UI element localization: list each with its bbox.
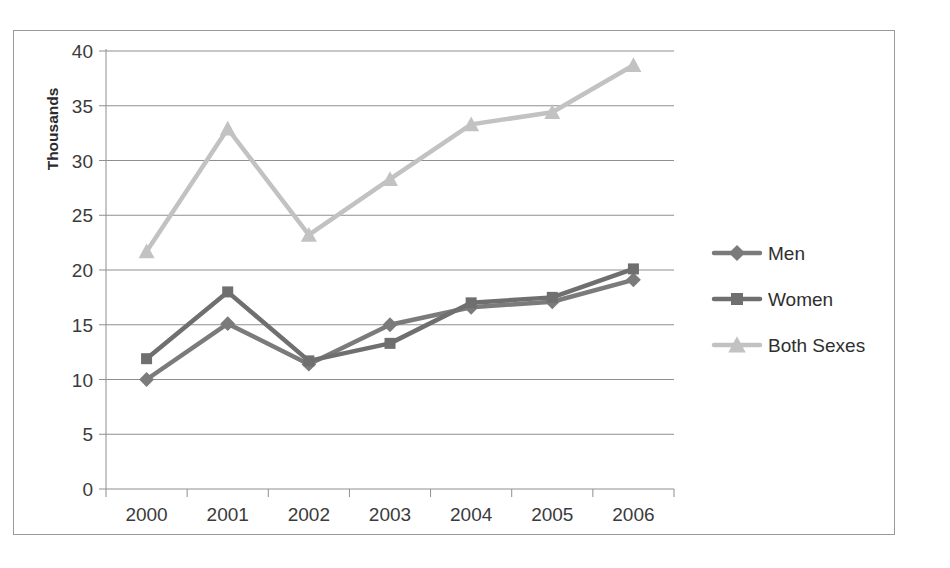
legend-item-both-sexes[interactable]: Both Sexes	[714, 335, 865, 356]
x-tick-label: 2000	[125, 504, 167, 525]
chart-page: 0510152025303540 20002001200220032004200…	[0, 0, 950, 568]
line-chart: 0510152025303540 20002001200220032004200…	[14, 31, 894, 534]
data-point-triangle	[220, 121, 236, 136]
data-point-square	[466, 297, 477, 308]
y-tick-label: 15	[72, 315, 93, 336]
y-tick-label: 25	[72, 205, 93, 226]
y-tick-label: 30	[72, 151, 93, 172]
y-tick-label: 20	[72, 260, 93, 281]
y-axis-title: Thousands	[44, 88, 61, 171]
data-point-square	[141, 353, 152, 364]
data-point-square	[303, 355, 314, 366]
x-tick-label: 2005	[531, 504, 573, 525]
chart-frame: 0510152025303540 20002001200220032004200…	[13, 30, 895, 535]
series-women	[141, 263, 639, 366]
data-point-triangle	[625, 57, 641, 72]
data-point-diamond	[383, 317, 398, 332]
series-men	[139, 272, 641, 386]
x-tick-label: 2001	[207, 504, 249, 525]
x-axis-tick-labels: 2000200120022003200420052006	[125, 504, 654, 525]
data-point-square	[222, 286, 233, 297]
y-tick-label: 0	[82, 479, 93, 500]
legend-label: Both Sexes	[768, 335, 865, 356]
data-point-diamond	[626, 272, 641, 287]
data-point-square	[628, 263, 639, 274]
series-both-sexes	[139, 57, 642, 258]
legend-item-men[interactable]: Men	[714, 243, 805, 264]
chart-gridlines	[106, 51, 674, 489]
x-axis-ticks	[106, 489, 674, 497]
y-tick-label: 10	[72, 370, 93, 391]
y-axis-title-text: Thousands	[44, 88, 61, 171]
chart-legend: MenWomenBoth Sexes	[714, 243, 865, 356]
clipped-caption-text	[8, 0, 928, 3]
legend-label: Men	[768, 243, 805, 264]
x-tick-label: 2004	[450, 504, 493, 525]
series-line	[147, 65, 634, 251]
y-tick-label: 5	[82, 424, 93, 445]
data-point-square	[731, 293, 743, 305]
data-point-diamond	[729, 245, 745, 261]
data-point-square	[547, 292, 558, 303]
legend-item-women[interactable]: Women	[714, 289, 833, 310]
y-tick-label: 35	[72, 96, 93, 117]
y-tick-label: 40	[72, 41, 93, 62]
data-point-square	[385, 338, 396, 349]
y-axis-ticks	[99, 51, 106, 489]
chart-series-layer	[139, 57, 642, 387]
x-tick-label: 2006	[612, 504, 654, 525]
legend-label: Women	[768, 289, 833, 310]
x-tick-label: 2002	[288, 504, 330, 525]
x-tick-label: 2003	[369, 504, 411, 525]
y-axis-tick-labels: 0510152025303540	[72, 41, 93, 500]
